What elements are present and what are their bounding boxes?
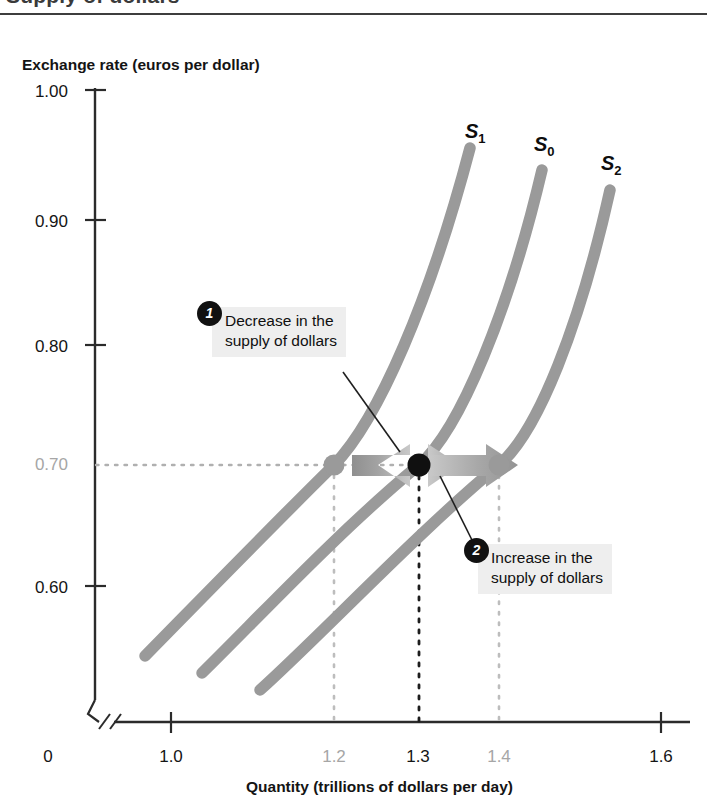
callout-2-line-2: supply of dollars [491,568,603,588]
point-s2-at-070 [489,455,510,476]
callout-1-line-2: supply of dollars [225,331,337,351]
supply-of-dollars-figure: Supply of dollars Exchange rate (euros p… [0,0,707,812]
plot-area [0,0,707,812]
curve-label-s1: S1 [465,120,486,146]
callout-2-line-1: Increase in the [491,548,603,568]
callout-decrease-supply: Decrease in the supply of dollars [212,307,346,357]
point-s1-at-070 [324,455,345,476]
supply-curve-s1 [145,148,470,656]
curve-label-s2: S2 [601,152,622,178]
callout-increase-supply: Increase in the supply of dollars [478,544,612,594]
callout-2-badge: 2 [464,538,489,563]
curve-label-s0: S0 [534,133,555,159]
equilibrium-point [408,454,431,477]
x-axis-break-slash-1 [99,714,110,729]
callout-1-line-1: Decrease in the [225,311,337,331]
callout-1-badge: 1 [197,301,222,326]
y-axis-break [88,700,99,722]
